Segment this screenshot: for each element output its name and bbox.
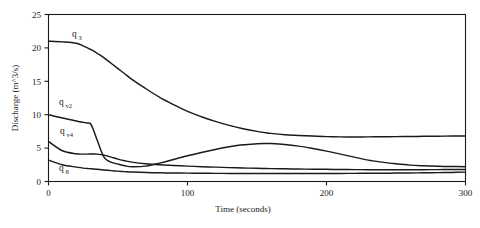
y-tick-label-5: 5 — [37, 143, 42, 153]
chart-figure: 0 5 10 15 20 25 0 100 200 300 Time (seco… — [0, 0, 480, 228]
series-label-q8-sub: 8 — [66, 168, 69, 175]
y-tick-label-25: 25 — [32, 10, 42, 20]
series-label-qv4-sub: v4 — [67, 131, 74, 138]
y-tick-label-10: 10 — [32, 110, 42, 120]
series-label-q3-sub: 3 — [79, 34, 82, 41]
series-label-q8-base: q — [59, 163, 64, 173]
x-tick-label-0: 0 — [46, 188, 51, 198]
y-axis-title: Discharge (m^3/s) — [10, 65, 20, 131]
y-tick-label-0: 0 — [37, 177, 42, 187]
x-tick-label-100: 100 — [181, 188, 195, 198]
x-tick-label-300: 300 — [459, 188, 473, 198]
x-axis-title: Time (seconds) — [215, 204, 270, 214]
discharge-time-line-chart: 0 5 10 15 20 25 0 100 200 300 Time (seco… — [0, 0, 480, 228]
y-tick-label-15: 15 — [32, 77, 42, 87]
series-label-qv4-base: q — [60, 126, 65, 136]
series-label-qv2-base: q — [59, 97, 64, 107]
series-label-q3-base: q — [72, 29, 77, 39]
y-tick-label-20: 20 — [32, 43, 42, 53]
x-tick-label-200: 200 — [320, 188, 334, 198]
series-label-qv2-sub: v2 — [66, 102, 73, 109]
